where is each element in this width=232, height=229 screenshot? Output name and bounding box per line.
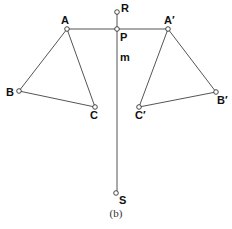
label-r: R [121,2,129,14]
point-a-prime [166,27,171,32]
label-c: C [90,109,98,121]
point-a [65,27,70,32]
label-p: P [120,31,127,43]
point-b [17,89,22,94]
label-m: m [120,51,130,63]
triangle-a-prime-b-prime-c-prime [139,29,216,107]
point-p [115,27,120,32]
label-b-prime: B′ [217,94,228,106]
point-r [115,10,120,15]
label-b: B [6,86,14,98]
label-a: A [61,14,69,26]
label-c-prime: C′ [135,109,146,121]
point-s [114,191,119,196]
figure-caption: (b) [110,207,123,220]
triangle-abc [19,29,95,107]
label-a-prime: A′ [164,14,175,26]
label-s: S [119,194,126,206]
reflection-diagram: R P A A′ B C C′ B′ m S (b) [0,0,232,229]
